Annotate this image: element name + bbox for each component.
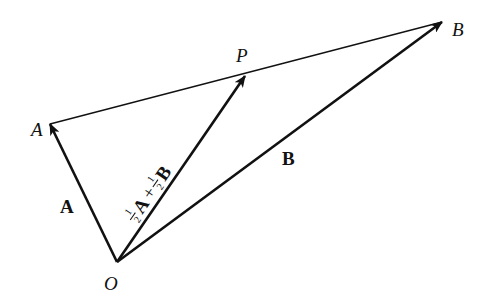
point-label-b: B	[452, 19, 464, 40]
vector-oa-arrow	[50, 124, 117, 262]
point-label-a: A	[29, 119, 43, 140]
coef2-denominator: 2	[154, 181, 166, 191]
segment-ab	[50, 22, 442, 124]
vector-label-a: A	[60, 196, 74, 217]
vector-label-b: B	[282, 148, 295, 169]
point-label-o: O	[104, 273, 118, 294]
vector-diagram: O A P B A B 1 2 A + 1 2 B	[0, 0, 490, 302]
vector-ob-arrow	[117, 22, 442, 262]
point-label-p: P	[235, 45, 248, 66]
coef1-denominator: 2	[131, 214, 143, 224]
vector-op-arrow	[117, 76, 245, 262]
